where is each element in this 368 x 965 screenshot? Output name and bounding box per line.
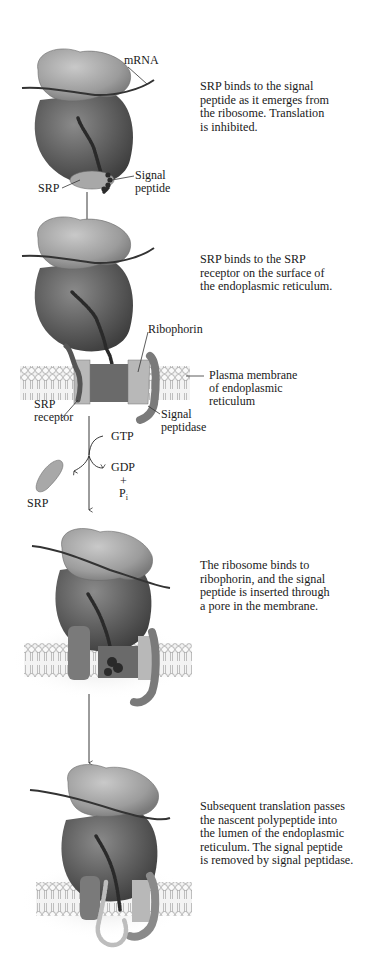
label-srp-receptor: SRP receptor	[34, 398, 73, 424]
label-gdp: GDP	[111, 461, 135, 474]
released-srp	[36, 460, 63, 492]
label-pi-main: P	[119, 486, 126, 500]
label-signal-peptide-line2: peptide	[135, 182, 170, 195]
caption-step4-line5: is removed by signal peptidase.	[200, 854, 368, 868]
caption-step2-line3: the endoplasmic reticulum.	[200, 280, 368, 294]
caption-step1-line1: SRP binds to the signal	[200, 80, 368, 94]
caption-step4-line2: the nascent polypeptide into	[200, 814, 368, 828]
caption-step3-line2: ribophorin, and the signal	[200, 573, 368, 587]
label-signal-peptide: Signal peptide	[135, 169, 170, 195]
caption-step3-line3: peptide is inserted through	[200, 586, 368, 600]
step3-ribosome-translocon	[10, 529, 192, 703]
step4-ribosome-lumen	[20, 764, 192, 945]
caption-step2-line2: receptor on the surface of	[200, 267, 368, 281]
label-pi: Pi	[119, 487, 128, 504]
caption-step2-line1: SRP binds to the SRP	[200, 253, 368, 267]
step2-ribosome-membrane	[20, 217, 204, 420]
label-signal-peptidase: Signal peptidase	[161, 408, 206, 434]
gtp-hydrolysis-arrows	[74, 416, 103, 510]
caption-step1-line2: peptide as it emerges from	[200, 94, 368, 108]
label-ribophorin: Ribophorin	[148, 323, 203, 336]
caption-step3-line1: The ribosome binds to	[200, 559, 368, 573]
label-membrane-line3: reticulum	[209, 395, 297, 408]
label-signal-peptidase-line2: peptidase	[161, 421, 206, 434]
caption-step4: Subsequent translation passes the nascen…	[200, 800, 368, 868]
label-srp-released: SRP	[27, 497, 48, 510]
caption-step4-line3: the lumen of the endoplasmic	[200, 827, 368, 841]
caption-step3-line4: a pore in the membrane.	[200, 600, 368, 614]
label-mrna: mRNA	[124, 54, 159, 67]
label-plasma-membrane: Plasma membrane of endoplasmic reticulum	[209, 369, 297, 408]
caption-step4-line1: Subsequent translation passes	[200, 800, 368, 814]
caption-step2: SRP binds to the SRP receptor on the sur…	[200, 253, 368, 294]
label-srp: SRP	[38, 182, 59, 195]
caption-step1-line4: is inhibited.	[200, 121, 368, 135]
label-srp-receptor-line2: receptor	[34, 411, 73, 424]
caption-step1: SRP binds to the signal peptide as it em…	[200, 80, 368, 134]
caption-step3: The ribosome binds to ribophorin, and th…	[200, 559, 368, 613]
caption-step4-line4: reticulum. The signal peptide	[200, 841, 368, 855]
caption-step1-line3: the ribosome. Translation	[200, 107, 368, 121]
label-gtp: GTP	[111, 430, 134, 443]
label-pi-subscript: i	[126, 493, 128, 502]
